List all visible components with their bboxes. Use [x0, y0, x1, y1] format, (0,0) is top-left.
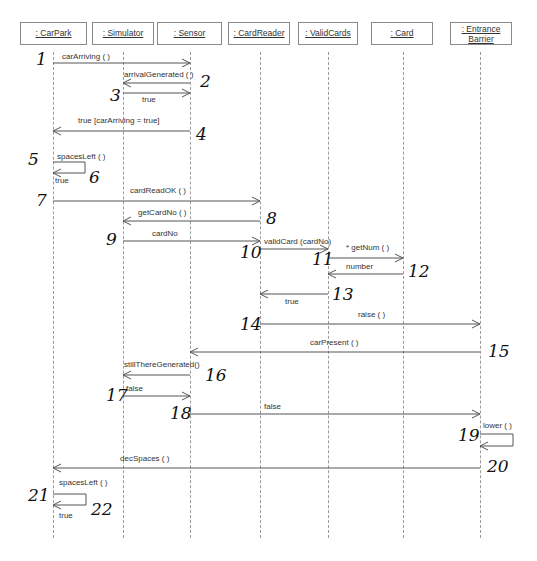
message-label-8: getCardNo ( ) — [138, 208, 186, 217]
message-label-7: cardReadOK ( ) — [130, 186, 186, 195]
message-label-5: spacesLeft ( ) — [57, 152, 105, 161]
message-label-4: true [carArriving = true] — [78, 116, 160, 125]
step-number-14: 14 — [240, 315, 262, 333]
step-number-12: 12 — [408, 262, 430, 280]
message-label-22: true — [59, 511, 73, 520]
message-label-16: stillThereGenerated() — [124, 360, 200, 369]
step-number-13: 13 — [332, 285, 354, 303]
message-label-15: carPresent ( ) — [310, 338, 358, 347]
step-number-6: 6 — [89, 168, 100, 186]
sequence-diagram: : CarPark : Simulator : Sensor : CardRea… — [0, 0, 537, 561]
step-number-2: 2 — [200, 72, 211, 90]
message-label-1: carArriving ( ) — [62, 52, 110, 61]
step-number-11: 11 — [312, 250, 334, 268]
step-number-3: 3 — [110, 86, 121, 104]
message-label-18: false — [264, 402, 281, 411]
message-arrows — [0, 0, 537, 561]
step-number-1: 1 — [36, 50, 47, 68]
message-label-11: * getNum ( ) — [346, 243, 389, 252]
message-label-13: true — [285, 297, 299, 306]
step-number-15: 15 — [488, 342, 510, 360]
step-number-16: 16 — [205, 366, 227, 384]
step-number-7: 7 — [36, 191, 47, 209]
step-number-5: 5 — [28, 150, 39, 168]
step-number-20: 20 — [487, 457, 509, 475]
message-label-20: decSpaces ( ) — [120, 454, 169, 463]
message-label-10: validCard (cardNo) — [264, 237, 331, 246]
message-label-14: raise ( ) — [358, 310, 385, 319]
step-number-10: 10 — [240, 243, 262, 261]
message-label-19: lower ( ) — [483, 421, 512, 430]
step-number-17: 17 — [106, 386, 128, 404]
message-label-17: false — [126, 384, 143, 393]
message-label-3: true — [142, 95, 156, 104]
message-label-12: number — [346, 262, 373, 271]
step-number-19: 19 — [458, 426, 480, 444]
step-number-21: 21 — [28, 486, 50, 504]
message-label-2: arrivalGenerated ( ) — [124, 70, 193, 79]
message-label-9: cardNo — [152, 229, 178, 238]
message-label-21: spacesLeft ( ) — [59, 478, 107, 487]
step-number-22: 22 — [91, 500, 113, 518]
step-number-9: 9 — [106, 230, 117, 248]
step-number-18: 18 — [170, 404, 192, 422]
message-label-6: true — [55, 176, 69, 185]
step-number-8: 8 — [266, 209, 277, 227]
step-number-4: 4 — [196, 125, 207, 143]
